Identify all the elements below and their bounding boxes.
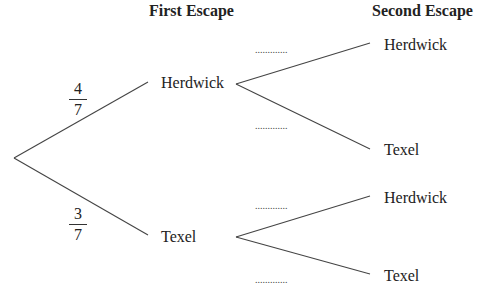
fraction-bar xyxy=(69,224,87,225)
blank-probability-tt[interactable]: ............. xyxy=(255,275,288,285)
blank-probability-th[interactable]: ............. xyxy=(255,201,288,211)
fraction-bar xyxy=(69,99,87,100)
branch-texel-texel xyxy=(236,237,370,274)
node-second-herdwick-texel: Texel xyxy=(384,142,419,158)
node-first-texel: Texel xyxy=(161,229,196,245)
node-first-herdwick: Herdwick xyxy=(161,75,224,91)
fraction-numerator: 4 xyxy=(68,81,88,97)
fraction-denominator: 7 xyxy=(68,227,88,243)
node-second-herdwick-herdwick: Herdwick xyxy=(384,37,447,53)
node-second-texel-herdwick: Herdwick xyxy=(384,190,447,206)
header-second-escape: Second Escape xyxy=(372,3,473,19)
fraction-numerator: 3 xyxy=(68,206,88,222)
blank-probability-ht[interactable]: ............. xyxy=(255,121,288,131)
branch-herdwick-texel xyxy=(236,84,370,149)
blank-probability-hh[interactable]: ............. xyxy=(255,45,288,55)
fraction-denominator: 7 xyxy=(68,102,88,118)
node-second-texel-texel: Texel xyxy=(384,268,419,284)
header-first-escape: First Escape xyxy=(149,3,234,19)
probability-first-herdwick: 4 7 xyxy=(68,81,88,118)
probability-first-texel: 3 7 xyxy=(68,206,88,243)
